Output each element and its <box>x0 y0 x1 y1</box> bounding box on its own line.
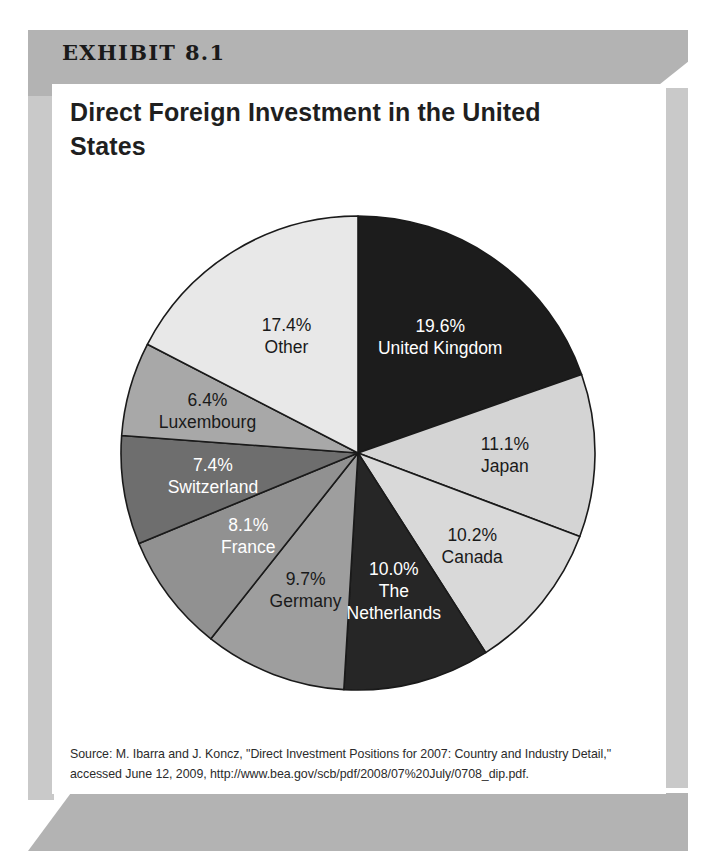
pie-chart-svg: 19.6%United Kingdom11.1%Japan10.2%Canada… <box>118 170 605 730</box>
exhibit-card: EXHIBIT 8.1 Direct Foreign Investment in… <box>0 0 719 859</box>
source-note: Source: M. Ibarra and J. Koncz, "Direct … <box>70 744 644 784</box>
card-right-edge-decoration <box>664 88 688 788</box>
exhibit-label: EXHIBIT 8.1 <box>62 40 225 65</box>
card-left-edge-decoration <box>28 88 54 800</box>
exhibit-title: Direct Foreign Investment in the United … <box>70 96 590 164</box>
exhibit-footer-band <box>28 793 688 851</box>
pie-chart: 19.6%United Kingdom11.1%Japan10.2%Canada… <box>118 170 605 730</box>
